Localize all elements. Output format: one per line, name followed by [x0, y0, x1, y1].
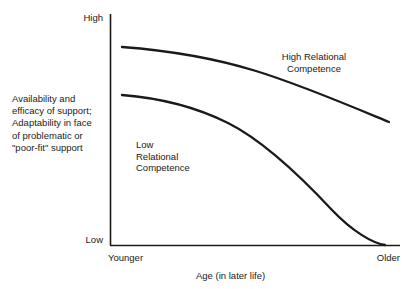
x-axis-tick-older: Older — [338, 252, 400, 264]
annotation-low-relational-competence: Low Relational Competence — [136, 139, 190, 174]
chart-figure: High Low Younger Older Age (in later lif… — [0, 0, 411, 289]
x-axis-tick-younger: Younger — [108, 252, 143, 264]
annotation-high-relational-competence: High Relational Competence — [262, 51, 366, 74]
y-axis-tick-low: Low — [63, 234, 103, 246]
y-axis-title: Availability and efficacy of support; Ad… — [12, 93, 104, 154]
y-axis-tick-high: High — [63, 12, 103, 24]
x-axis-title: Age (in later life) — [196, 270, 265, 282]
